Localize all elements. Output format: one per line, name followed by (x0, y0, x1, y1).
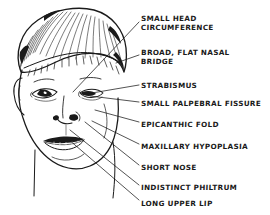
label-small-head-circumference: SMALL HEAD CIRCUMFERENCE (141, 14, 214, 33)
label-epicanthic-fold: EPICANTHIC FOLD (141, 120, 219, 129)
label-small-palpebral-fissure: SMALL PALPEBRAL FISSURE (141, 99, 261, 108)
label-short-nose: SHORT NOSE (141, 163, 197, 172)
label-strabismus: STRABISMUS (141, 81, 198, 90)
label-long-upper-lip: LONG UPPER LIP (141, 199, 213, 208)
label-broad-flat-nasal-bridge: BROAD, FLAT NASAL BRIDGE (141, 48, 230, 67)
label-indistinct-philtrum: INDISTINCT PHILTRUM (141, 183, 238, 192)
label-maxillary-hypoplasia: MAXILLARY HYPOPLASIA (141, 142, 248, 151)
facial-features-figure: SMALL HEAD CIRCUMFERENCEBROAD, FLAT NASA… (0, 0, 270, 215)
